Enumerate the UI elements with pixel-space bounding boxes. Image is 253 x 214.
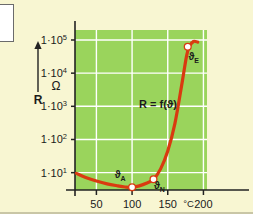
x-axis-unit-label: °C (183, 198, 194, 209)
data-point-marker (184, 43, 191, 50)
chart-figure: R = f(ϑ) ϑAϑNϑE 1·1011·1021·1031·1041·10… (0, 0, 253, 214)
x-tick-label: 50 (90, 198, 102, 210)
y-tick-label: 1·102 (41, 132, 67, 145)
x-tick-label: 200 (194, 198, 212, 210)
y-tick-label: 1·101 (41, 166, 67, 179)
y-tick-label: 1·103 (41, 99, 67, 112)
data-point-marker (129, 184, 136, 191)
x-tick-label: 150 (159, 198, 177, 210)
x-tick-label: 100 (123, 198, 141, 210)
curve-annotation: R = f(ϑ) (139, 98, 177, 110)
y-axis-name: R (34, 93, 43, 107)
y-axis-unit-label: Ω (52, 79, 61, 93)
bottom-divider (0, 212, 253, 214)
y-tick-label: 1·105 (41, 33, 67, 46)
y-tick-label: 1·104 (41, 66, 67, 79)
resistance-temperature-chart: R = f(ϑ) ϑAϑNϑE 1·1011·1021·1031·1041·10… (0, 0, 253, 214)
